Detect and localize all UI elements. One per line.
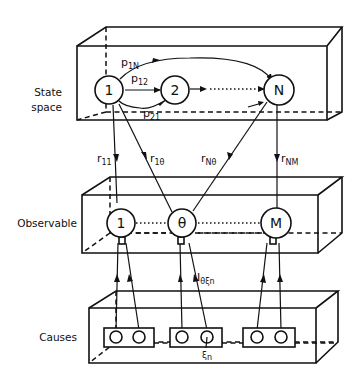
svg-text:M: M (270, 215, 282, 231)
label-p12: p12 (131, 72, 148, 87)
observable-node-theta: θ (168, 209, 196, 237)
cause-edges (114, 243, 283, 330)
svg-text:1: 1 (117, 215, 126, 231)
cause-group-3 (243, 328, 295, 347)
label-rNM: rNM (281, 152, 299, 167)
label-p21: p21 (143, 107, 160, 122)
label-r1theta: r1θ (150, 152, 165, 167)
causes-label: Causes (39, 331, 77, 343)
state-space-box (77, 27, 342, 120)
svg-text:1: 1 (105, 82, 114, 98)
state-node-1: 1 (95, 76, 123, 104)
label-influence: Iθξn (197, 271, 215, 286)
observable-node-1: 1 (107, 209, 135, 237)
state-node-N: N (264, 75, 294, 105)
label-xi-n: ξn (202, 350, 212, 362)
observable-node-M: M (261, 208, 291, 238)
label-rNtheta: rNθ (201, 152, 217, 167)
observable-label: Observable (17, 217, 77, 229)
state-space-label-line1: State (34, 86, 62, 98)
cause-group-1 (104, 328, 154, 347)
svg-text:N: N (274, 82, 284, 98)
causes-box (89, 291, 338, 363)
svg-text:2: 2 (171, 82, 180, 98)
state-node-2: 2 (161, 76, 189, 104)
label-p1N: p1N (121, 56, 139, 71)
state-space-label-line2: space (31, 101, 62, 113)
svg-text:θ: θ (178, 215, 187, 231)
hmm-diagram: 1 2 N 1 θ M p1N p12 p21 r11 r1θ rNθ rNM … (0, 0, 360, 383)
cause-group-2 (170, 328, 222, 347)
label-r11: r11 (97, 152, 112, 167)
